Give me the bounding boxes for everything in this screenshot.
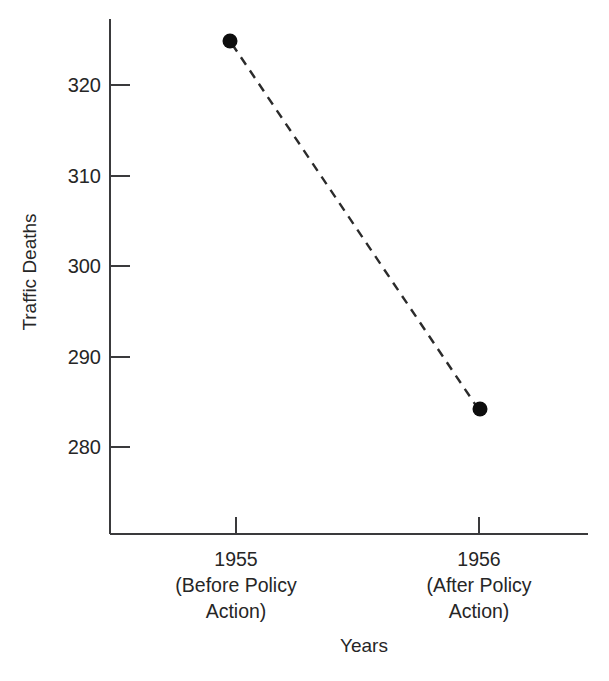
y-tick-label-300: 300 bbox=[68, 255, 101, 277]
traffic-deaths-line-chart: 320 310 300 290 280 1955 (Before Policy … bbox=[0, 0, 609, 681]
x-tick-label-1956: 1956 bbox=[457, 548, 500, 570]
x-axis-title: Years bbox=[340, 635, 388, 656]
x-tick-sublabel-1955-line2: Action) bbox=[206, 600, 267, 622]
data-point-1955 bbox=[223, 34, 238, 49]
x-tick-sublabel-1956-line1: (After Policy bbox=[426, 574, 531, 596]
y-tick-label-320: 320 bbox=[68, 74, 101, 96]
y-axis-title: Traffic Deaths bbox=[19, 213, 40, 330]
data-point-1956 bbox=[473, 402, 488, 417]
y-tick-label-290: 290 bbox=[68, 346, 101, 368]
x-tick-sublabel-1955-line1: (Before Policy bbox=[175, 574, 297, 596]
y-tick-label-280: 280 bbox=[68, 436, 101, 458]
x-tick-label-1955: 1955 bbox=[214, 548, 258, 570]
y-tick-label-310: 310 bbox=[68, 165, 101, 187]
x-tick-sublabel-1956-line2: Action) bbox=[449, 600, 510, 622]
chart-page: 320 310 300 290 280 1955 (Before Policy … bbox=[0, 0, 609, 681]
